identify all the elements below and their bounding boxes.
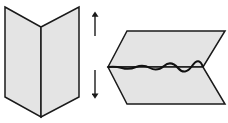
opened-top-panel <box>108 31 225 67</box>
opened-paper <box>108 31 225 104</box>
folding-diagram <box>0 0 228 123</box>
folded-paper <box>5 7 79 117</box>
folded-left-panel <box>5 7 41 117</box>
folded-right-panel <box>41 7 79 117</box>
opened-bottom-panel <box>108 67 225 104</box>
